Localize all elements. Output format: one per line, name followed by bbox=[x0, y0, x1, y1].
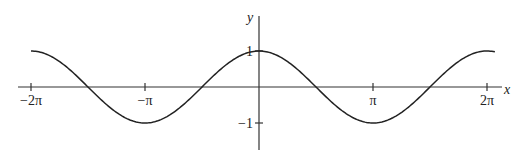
x-tick-label: −π bbox=[138, 93, 153, 108]
x-tick-label: 2π bbox=[480, 93, 494, 108]
cosine-chart: −2π−ππ2π 1−1 x y bbox=[0, 0, 523, 157]
x-tick-label: −2π bbox=[20, 93, 42, 108]
y-axis-label: y bbox=[245, 10, 254, 25]
x-axis-label: x bbox=[503, 82, 511, 97]
y-tick-label: −1 bbox=[238, 116, 253, 131]
chart-canvas: −2π−ππ2π 1−1 x y bbox=[0, 0, 523, 157]
x-tick-label: π bbox=[369, 93, 376, 108]
